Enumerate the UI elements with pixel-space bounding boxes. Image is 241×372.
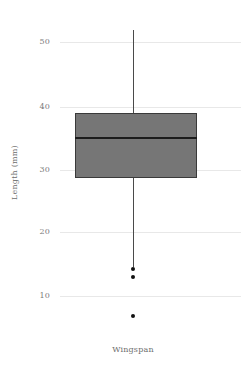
lower-whisker [133, 178, 134, 267]
upper-whisker [133, 30, 134, 114]
y-axis-title: Length (mm) [10, 143, 19, 203]
gridline-10 [60, 296, 241, 297]
ytick-label-30: 30 [26, 166, 50, 174]
gridline-20 [60, 232, 241, 233]
gridline-50 [60, 42, 241, 43]
ytick-label-40: 40 [26, 103, 50, 111]
gridline-40 [60, 107, 241, 108]
box-plot-figure: 50 40 30 20 10 Length (mm) Wingspan [0, 0, 241, 372]
xtick-label-wingspan: Wingspan [83, 346, 183, 354]
median-line [75, 137, 197, 139]
ytick-label-50: 50 [26, 38, 50, 46]
outlier-point [131, 267, 135, 271]
box-iqr [75, 113, 197, 178]
outlier-point [131, 314, 135, 318]
ytick-label-10: 10 [26, 292, 50, 300]
outlier-point [131, 275, 135, 279]
ytick-label-20: 20 [26, 228, 50, 236]
